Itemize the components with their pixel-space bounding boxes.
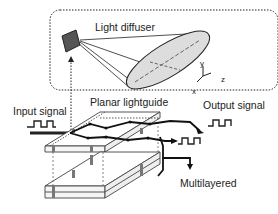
input-pulse-icon bbox=[27, 121, 56, 127]
multilayer-arrow-icon bbox=[187, 164, 193, 170]
optical-diagram: y z x Light diffuser Planar lightguide I… bbox=[0, 0, 278, 214]
output-arrow-icon-1 bbox=[196, 128, 204, 134]
diffuser-icon bbox=[62, 30, 80, 52]
output-arrow-icon-2 bbox=[171, 138, 178, 144]
output-pulse-icon-2 bbox=[178, 138, 200, 144]
axis-y-label: y bbox=[200, 59, 204, 68]
light-diffuser-label: Light diffuser bbox=[95, 21, 155, 33]
output-signal-label: Output signal bbox=[203, 99, 265, 111]
axes-icon bbox=[197, 66, 211, 82]
axis-z-label: z bbox=[221, 75, 225, 84]
output-pulse-icon-1 bbox=[208, 120, 231, 126]
planar-lightguide-label: Planar lightguide bbox=[90, 96, 168, 108]
up-arrow-icon bbox=[68, 56, 74, 62]
axis-x-label: x bbox=[192, 87, 196, 96]
multilayered-label: Multilayered bbox=[180, 177, 237, 189]
input-signal-label: Input signal bbox=[13, 105, 67, 117]
